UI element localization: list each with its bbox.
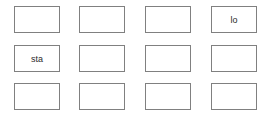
grid-cell-r3c1[interactable] (14, 83, 60, 110)
grid-cell-r1c3[interactable] (145, 6, 191, 33)
grid-cell-r1c4[interactable]: lo (211, 6, 257, 33)
grid-cell-r3c2[interactable] (79, 83, 125, 110)
grid-cell-r1c2[interactable] (79, 6, 125, 33)
grid-cell-label-r1c4: lo (230, 15, 237, 25)
button-grid-panel: lo sta (0, 0, 275, 118)
grid-cell-r1c1[interactable] (14, 6, 60, 33)
grid-cell-r3c4[interactable] (211, 83, 257, 110)
grid-cell-label-r2c1: sta (31, 54, 43, 64)
grid-cell-r2c2[interactable] (79, 45, 125, 72)
grid-cell-r2c4[interactable] (211, 45, 257, 72)
grid-cell-r2c1[interactable]: sta (14, 45, 60, 72)
grid-cell-r3c3[interactable] (145, 83, 191, 110)
grid-cell-r2c3[interactable] (145, 45, 191, 72)
